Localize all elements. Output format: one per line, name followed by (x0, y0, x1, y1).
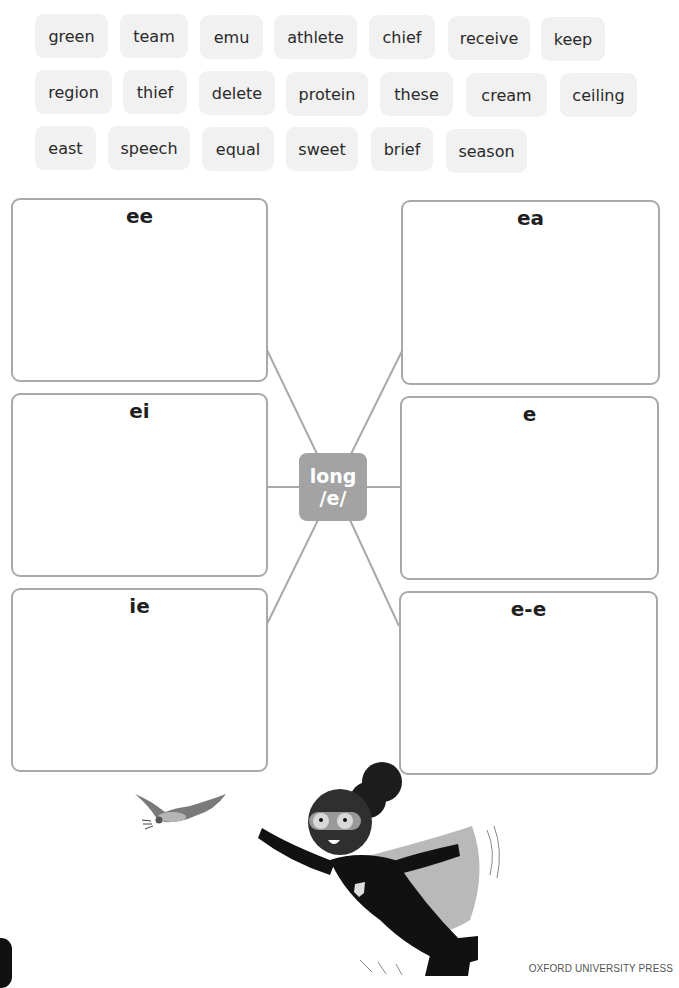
superhero-illustration (258, 762, 499, 976)
publisher-footer: OXFORD UNIVERSITY PRESS (529, 963, 673, 974)
page-edge-tab (0, 938, 12, 988)
bird-illustration (135, 794, 226, 829)
